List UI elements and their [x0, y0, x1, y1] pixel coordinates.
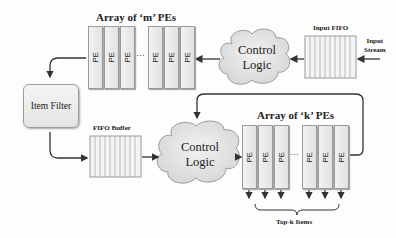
pe-k-4: PE — [302, 125, 317, 189]
control-logic-bottom-text: Control Logic — [166, 140, 234, 170]
fifo-buffer — [90, 136, 141, 177]
pe-k-5: PE — [318, 125, 333, 189]
pe-m-6: PE — [180, 26, 195, 89]
m-array-ellipsis: ··· — [136, 50, 145, 60]
pe-k-2: PE — [258, 125, 273, 189]
pe-k-1: PE — [242, 125, 257, 189]
fifo-buffer-label: FIFO Buffer — [93, 124, 131, 132]
top-k-items-label: Top-k Items — [276, 218, 312, 226]
pe-k-3: PE — [274, 125, 289, 189]
pe-k-6: PE — [334, 125, 349, 189]
pe-m-5: PE — [164, 26, 179, 89]
diagram-canvas: Array of ‘m’ PEs PE PE PE ··· PE PE PE C… — [0, 0, 396, 238]
input-fifo-label: Input FIFO — [313, 24, 348, 32]
pe-m-4: PE — [148, 26, 163, 89]
pe-m-1: PE — [88, 26, 103, 89]
k-array-title: Array of ‘k’ PEs — [257, 109, 334, 121]
pe-m-2: PE — [104, 26, 119, 89]
pe-m-3: PE — [120, 26, 135, 89]
top-k-brace — [255, 204, 339, 215]
item-filter-box: Item Filter — [23, 84, 79, 128]
control-logic-top-text: Control Logic — [226, 43, 288, 73]
input-stream-label: Input Stream — [364, 37, 386, 55]
input-fifo — [305, 36, 356, 78]
m-array-title: Array of ‘m’ PEs — [96, 11, 176, 23]
k-array-ellipsis: ··· — [290, 149, 299, 159]
